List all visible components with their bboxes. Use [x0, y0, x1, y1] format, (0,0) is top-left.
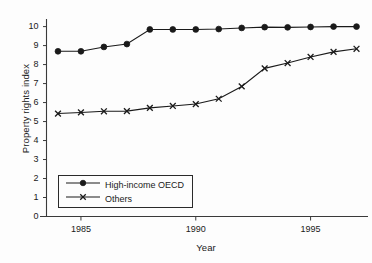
data-point-circle-marker — [147, 27, 153, 33]
data-point-circle-marker — [78, 48, 84, 54]
x-axis-ticks — [81, 217, 311, 221]
y-axis-tick-label: 1 — [19, 192, 39, 202]
x-axis-title: Year — [40, 242, 372, 253]
legend-label-others: Others — [105, 194, 132, 204]
data-point-x-marker — [239, 84, 245, 90]
data-point-circle-marker — [262, 24, 268, 30]
y-axis-tick-label: 8 — [19, 59, 39, 69]
data-point-circle-marker — [55, 48, 61, 54]
data-point-circle-marker — [308, 24, 314, 30]
data-point-circle-marker — [193, 27, 199, 33]
y-axis-tick-label: 4 — [19, 135, 39, 145]
series-high-income-oecd — [55, 24, 359, 54]
y-axis-tick-label: 6 — [19, 97, 39, 107]
property-rights-index-chart: Property rights index Year 012345678910 … — [0, 0, 372, 263]
y-axis-tick-label: 9 — [19, 40, 39, 50]
data-point-circle-marker — [80, 180, 86, 186]
data-point-circle-marker — [331, 24, 337, 30]
y-axis-tick-label: 5 — [19, 116, 39, 126]
legend-markers — [66, 180, 100, 200]
x-axis-tick-label: 1990 — [176, 224, 216, 234]
data-point-circle-marker — [101, 44, 107, 50]
data-point-circle-marker — [354, 24, 360, 30]
data-point-circle-marker — [216, 26, 222, 32]
data-series-layer — [55, 24, 359, 117]
y-axis-tick-label: 7 — [19, 78, 39, 88]
data-point-circle-marker — [239, 25, 245, 31]
data-point-circle-marker — [285, 24, 291, 30]
legend-label-high-income-oecd: High-income OECD — [105, 180, 184, 190]
data-point-circle-marker — [170, 27, 176, 33]
y-axis-tick-label: 2 — [19, 173, 39, 183]
y-axis-tick-label: 0 — [19, 211, 39, 221]
x-axis-tick-label: 1985 — [61, 224, 101, 234]
y-axis-tick-label: 3 — [19, 154, 39, 164]
series-others — [55, 46, 359, 117]
data-point-circle-marker — [124, 41, 130, 47]
y-axis-tick-label: 10 — [19, 21, 39, 31]
x-axis-tick-label: 1995 — [291, 224, 331, 234]
